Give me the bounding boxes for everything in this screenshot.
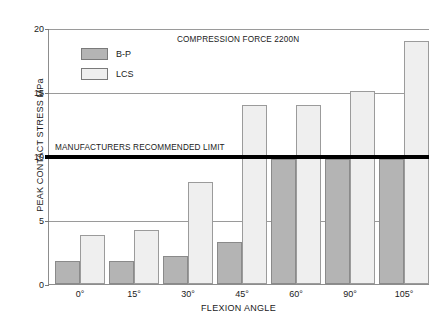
- xtick-label-5: 90°: [343, 289, 357, 299]
- xtick-label-0: 0°: [76, 289, 85, 299]
- bar-bp-0: [55, 261, 80, 284]
- legend-label-lcs: LCS: [116, 69, 134, 79]
- bar-lcs-5: [350, 91, 375, 284]
- bar-bp-3: [217, 242, 242, 284]
- legend-item-bp: B-P: [81, 45, 134, 62]
- legend-item-lcs: LCS: [81, 65, 134, 82]
- bar-lcs-3: [242, 105, 267, 284]
- xtick-label-1: 15°: [127, 289, 141, 299]
- bar-lcs-4: [296, 105, 321, 284]
- xtick-label-6: 105°: [395, 289, 414, 299]
- xtick-label-3: 45°: [235, 289, 249, 299]
- xtick-label-4: 60°: [289, 289, 303, 299]
- legend-swatch-lcs-icon: [81, 68, 108, 80]
- chart-figure: PEAK CONTACT STRESS MPa 20 15 10 5 0 COM…: [0, 0, 441, 325]
- bar-bp-6: [379, 159, 404, 284]
- x-axis-title: FLEXION ANGLE: [48, 303, 429, 313]
- recommended-limit-line: [45, 155, 429, 159]
- bar-lcs-6: [404, 41, 429, 284]
- bar-bp-2: [163, 256, 188, 284]
- legend-label-bp: B-P: [116, 49, 131, 59]
- ytick-label-15: 15: [34, 88, 44, 98]
- bar-lcs-0: [80, 235, 105, 284]
- bar-bp-4: [271, 159, 296, 284]
- ytick-label-0: 0: [39, 280, 44, 290]
- plot-area: 20 15 10 5 0 COMPRESSION FORCE 2200N B-P…: [48, 29, 429, 285]
- ytick-label-10: 10: [34, 152, 44, 162]
- bar-bp-1: [109, 261, 134, 284]
- ytick-mark-0: [45, 285, 49, 286]
- xtick-label-2: 30°: [181, 289, 195, 299]
- bar-bp-5: [325, 159, 350, 284]
- ytick-label-20: 20: [34, 24, 44, 34]
- chart-legend: B-P LCS: [81, 45, 134, 85]
- bar-lcs-2: [188, 182, 213, 284]
- compression-force-annotation: COMPRESSION FORCE 2200N: [177, 35, 299, 44]
- legend-swatch-bp-icon: [81, 48, 108, 60]
- bar-lcs-1: [134, 230, 159, 284]
- recommended-limit-label: MANUFACTURERS RECOMMENDED LIMIT: [55, 143, 225, 152]
- ytick-label-5: 5: [39, 216, 44, 226]
